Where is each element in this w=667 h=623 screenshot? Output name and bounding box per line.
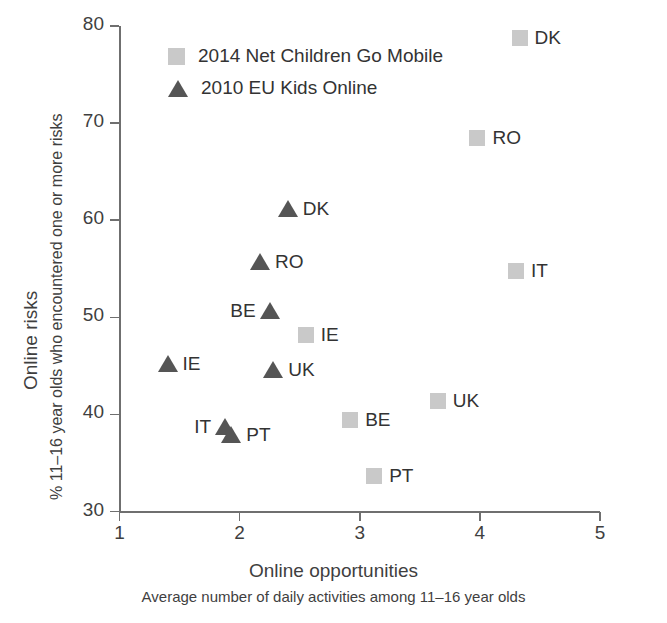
data-point-square-ro[interactable] xyxy=(469,130,485,146)
legend-item-label: 2014 Net Children Go Mobile xyxy=(198,45,443,67)
data-point-label: BE xyxy=(230,300,255,322)
x-axis-subtitle: Average number of daily activities among… xyxy=(0,588,667,605)
data-point-square-uk[interactable] xyxy=(430,393,446,409)
scatter-chart: Online risks % 11–16 year olds who encou… xyxy=(0,0,667,623)
data-point-triangle-dk[interactable] xyxy=(278,200,298,217)
data-point-label: IE xyxy=(321,324,339,346)
data-point-label: RO xyxy=(275,251,304,273)
data-point-square-dk[interactable] xyxy=(512,30,528,46)
x-axis-title: Online opportunities xyxy=(0,560,667,582)
data-point-label: IE xyxy=(183,353,201,375)
chart-legend: 2014 Net Children Go Mobile 2010 EU Kids… xyxy=(168,40,443,104)
data-point-label: PT xyxy=(389,465,413,487)
data-point-label: RO xyxy=(492,127,521,149)
triangle-marker-icon xyxy=(168,80,188,97)
legend-item-2010[interactable]: 2010 EU Kids Online xyxy=(168,72,443,104)
data-point-label: BE xyxy=(365,409,390,431)
data-point-square-be[interactable] xyxy=(342,412,358,428)
data-point-label: UK xyxy=(288,359,314,381)
data-point-label: DK xyxy=(303,198,329,220)
data-point-label: UK xyxy=(453,390,479,412)
data-point-square-it[interactable] xyxy=(508,263,524,279)
data-point-square-ie[interactable] xyxy=(298,327,314,343)
data-point-triangle-pt[interactable] xyxy=(221,426,241,443)
data-point-label: IT xyxy=(531,260,548,282)
data-point-label: DK xyxy=(535,27,561,49)
square-marker-icon xyxy=(168,48,185,65)
data-point-triangle-be[interactable] xyxy=(260,302,280,319)
data-point-triangle-ro[interactable] xyxy=(250,253,270,270)
data-point-label: IT xyxy=(194,416,211,438)
data-point-triangle-uk[interactable] xyxy=(263,361,283,378)
data-point-square-pt[interactable] xyxy=(366,468,382,484)
data-point-label: PT xyxy=(246,424,270,446)
data-point-triangle-ie[interactable] xyxy=(158,355,178,372)
legend-item-label: 2010 EU Kids Online xyxy=(201,77,377,99)
legend-item-2014[interactable]: 2014 Net Children Go Mobile xyxy=(168,40,443,72)
